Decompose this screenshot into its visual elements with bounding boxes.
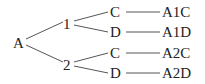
outcome-a1d: A1D <box>162 24 191 40</box>
edge-2-c <box>74 53 108 62</box>
outcome-a2d: A2D <box>162 65 191 81</box>
node-level2-c2: C <box>110 45 120 61</box>
node-level2-c1: C <box>110 4 120 20</box>
edge-1-d <box>74 25 108 32</box>
node-level1-2: 2 <box>63 57 71 73</box>
edge-a-2 <box>26 45 63 62</box>
node-root: A <box>13 35 24 51</box>
node-level2-d2: D <box>110 65 121 81</box>
tree-diagram: A 1 2 C D C D A1C A1D A2C A2D <box>0 0 205 84</box>
outcome-a2c: A2C <box>162 45 190 61</box>
edge-a-1 <box>26 22 63 39</box>
edge-1-c <box>74 12 108 21</box>
outcome-a1c: A1C <box>162 4 190 20</box>
edge-2-d <box>74 66 108 73</box>
node-level2-d1: D <box>110 24 121 40</box>
node-level1-1: 1 <box>63 16 71 32</box>
